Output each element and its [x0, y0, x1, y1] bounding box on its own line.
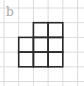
shape-cell: [19, 52, 34, 67]
shape-cell: [33, 37, 48, 52]
grid-diagram: b: [0, 0, 84, 86]
shape-cell: [48, 23, 63, 38]
shape-cell: [33, 52, 48, 67]
shape-cell: [19, 37, 34, 52]
figure-label: b: [6, 6, 14, 18]
shape-cell: [48, 52, 63, 67]
shape-cell: [48, 37, 63, 52]
shape-cell: [33, 23, 48, 38]
